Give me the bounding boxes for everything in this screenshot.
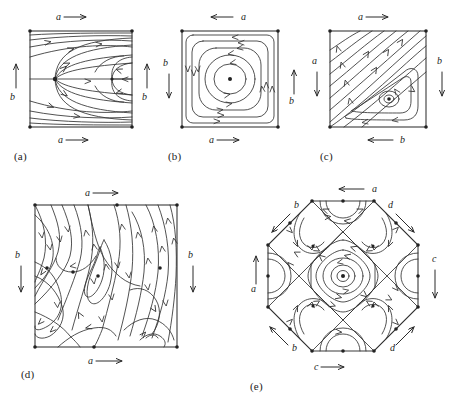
svg-text:b: b <box>292 342 297 353</box>
caption-panel-c: (c) <box>320 150 333 162</box>
svg-text:a: a <box>241 11 246 22</box>
svg-text:a: a <box>312 55 317 66</box>
svg-text:c: c <box>314 361 319 372</box>
svg-text:a: a <box>56 11 61 22</box>
caption-panel-b: (b) <box>168 150 181 162</box>
svg-text:a: a <box>88 355 93 366</box>
svg-text:a: a <box>358 11 363 22</box>
panel-b-center-point <box>228 77 232 81</box>
svg-text:b: b <box>294 199 299 210</box>
svg-text:a: a <box>85 187 90 198</box>
panel-c-center-point <box>387 97 391 101</box>
caption-panel-e: (e) <box>250 380 263 392</box>
svg-text:b: b <box>437 55 442 66</box>
svg-text:a: a <box>251 283 256 294</box>
svg-text:a: a <box>58 134 63 145</box>
svg-text:b: b <box>289 95 294 106</box>
svg-text:c: c <box>432 253 437 264</box>
svg-text:b: b <box>15 249 20 260</box>
svg-text:b: b <box>142 91 147 102</box>
flow-diagram-figure: .bd{fill:none;stroke:#3a3a3a;stroke-widt… <box>0 0 461 406</box>
svg-text:b: b <box>188 249 193 260</box>
svg-text:b: b <box>163 57 168 68</box>
svg-text:a: a <box>372 183 377 194</box>
caption-panel-a: (a) <box>14 150 27 162</box>
caption-panel-d: (d) <box>21 368 34 380</box>
figure-root: .bd{fill:none;stroke:#3a3a3a;stroke-widt… <box>0 0 461 406</box>
svg-text:b: b <box>10 91 15 102</box>
svg-text:a: a <box>209 134 214 145</box>
svg-text:b: b <box>400 134 405 145</box>
